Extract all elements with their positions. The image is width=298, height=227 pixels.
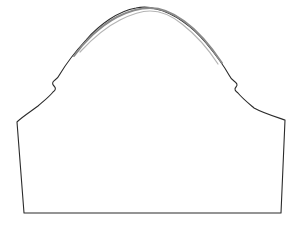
figure-canvas: Line drawing of a sleeve-cap pattern pie…: [0, 0, 298, 227]
pattern-outline-drawing: Line drawing of a sleeve-cap pattern pie…: [0, 0, 298, 227]
